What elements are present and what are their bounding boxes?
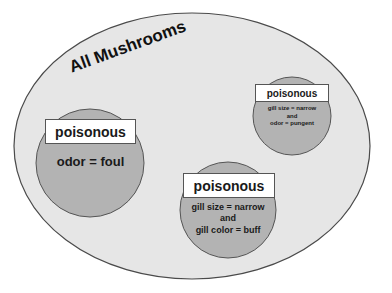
condition-gill-size-odor: gill size = narrow and odor = pungent (254, 105, 330, 128)
condition-odor-foul: odor = foul (45, 154, 136, 170)
condition-line: gill color = buff (180, 225, 276, 236)
poisonous-label-gill-size-odor: poisonous (255, 84, 329, 102)
label-text: poisonous (55, 124, 126, 140)
poisonous-label-gill-size-color: poisonous (183, 173, 275, 198)
condition-line: odor = foul (45, 154, 136, 170)
label-text: poisonous (267, 88, 318, 99)
venn-diagram (0, 0, 392, 293)
condition-line: gill size = narrow (254, 105, 330, 113)
label-text: poisonous (194, 178, 265, 194)
condition-gill-size-color: gill size = narrow and gill color = buff (180, 202, 276, 236)
condition-line: gill size = narrow (180, 202, 276, 213)
condition-line: odor = pungent (254, 120, 330, 128)
poisonous-label-odor-foul: poisonous (45, 119, 136, 144)
condition-line: and (254, 113, 330, 121)
condition-line: and (180, 213, 276, 224)
